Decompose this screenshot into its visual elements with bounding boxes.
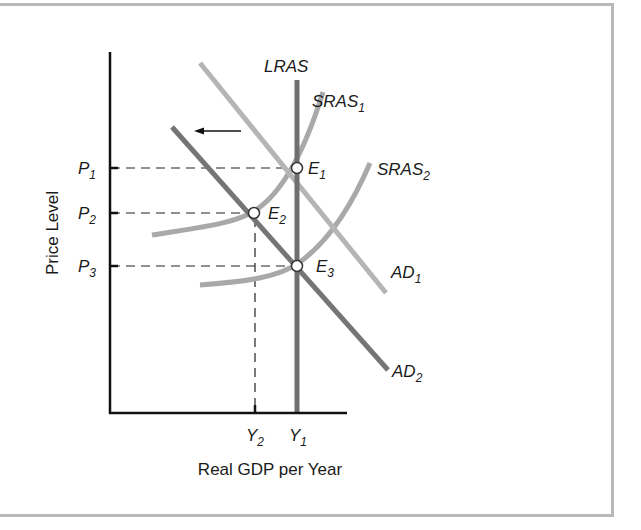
y2-label: Y2 (246, 426, 264, 449)
e2-label: E2 (268, 204, 286, 227)
lras-label: LRAS (264, 57, 309, 76)
p1-label: P1 (78, 159, 96, 182)
e2-point (249, 208, 260, 219)
x-axis-title: Real GDP per Year (198, 460, 343, 479)
ad-as-diagram: LRAS SRAS1 SRAS2 AD1 AD2 E1 E2 E3 P1 P2 … (0, 0, 641, 530)
sras2-label: SRAS2 (377, 160, 430, 183)
ad1-label: AD1 (390, 263, 421, 286)
axis-ticks (110, 168, 255, 413)
left-arrow-icon (194, 128, 241, 135)
y-axis-title: Price Level (43, 191, 62, 275)
e1-point (292, 163, 303, 174)
sras1-label: SRAS1 (312, 92, 365, 115)
ad2-label: AD2 (391, 362, 423, 385)
e3-label: E3 (316, 257, 334, 280)
p3-label: P3 (78, 257, 96, 280)
e1-label: E1 (308, 159, 326, 182)
p2-label: P2 (78, 204, 96, 227)
e3-point (292, 261, 303, 272)
y1-label: Y1 (289, 426, 307, 449)
